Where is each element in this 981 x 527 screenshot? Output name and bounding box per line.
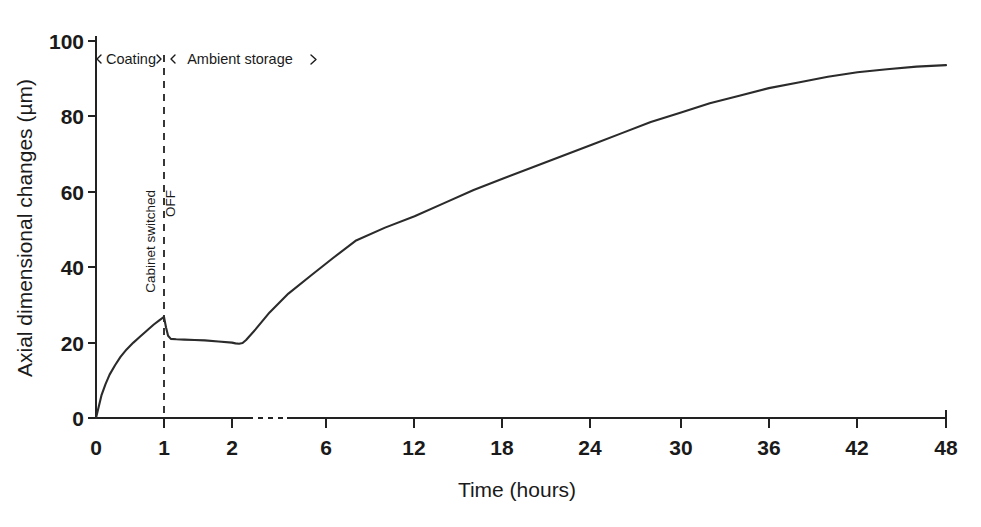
arrow-left-coating-icon [97, 55, 101, 63]
arrow-right-coating-icon [157, 55, 161, 63]
x-tick-label-12: 12 [402, 436, 425, 459]
chart-figure: 100 80 60 40 20 0 0 1 2 6 12 18 24 30 36 [0, 0, 981, 527]
y-tick-label-60: 60 [61, 181, 84, 204]
axial-dimensional-changes-line-chart: 100 80 60 40 20 0 0 1 2 6 12 18 24 30 36 [0, 0, 981, 527]
x-axis-title: Time (hours) [458, 478, 576, 501]
y-tick-label-0: 0 [72, 407, 84, 430]
phase-span-coating: Coating [97, 51, 161, 67]
x-tick-label-18: 18 [490, 436, 514, 459]
event-label-line-1: Cabinet switched [143, 190, 158, 293]
x-tick-label-2: 2 [226, 436, 238, 459]
x-tick-label-24: 24 [578, 436, 602, 459]
arrow-left-ambient-icon [171, 55, 175, 63]
x-tick-label-36: 36 [757, 436, 780, 459]
x-tick-label-42: 42 [845, 436, 868, 459]
y-tick-label-40: 40 [61, 256, 84, 279]
x-tick-label-48: 48 [934, 436, 958, 459]
x-tick-label-30: 30 [669, 436, 692, 459]
y-tick-label-20: 20 [61, 332, 84, 355]
phase-span-ambient-storage: Ambient storage [171, 51, 316, 67]
arrow-right-ambient-icon [311, 55, 316, 64]
x-tick-label-6: 6 [320, 436, 332, 459]
event-label-line-2: OFF [163, 190, 178, 217]
x-tick-label-0: 0 [90, 436, 102, 459]
phase-label-ambient-storage: Ambient storage [187, 51, 293, 67]
phase-label-coating: Coating [106, 51, 156, 67]
y-tick-label-80: 80 [61, 105, 84, 128]
data-curve-axial-dimensional-change [96, 65, 946, 418]
x-tick-label-1: 1 [158, 436, 170, 459]
y-axis-ticks [88, 41, 96, 418]
y-tick-label-100: 100 [49, 30, 84, 53]
y-axis-title: Axial dimensional changes (µm) [13, 79, 36, 377]
